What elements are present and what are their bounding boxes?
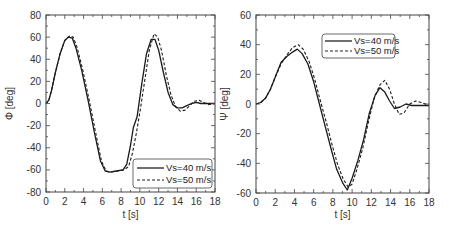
x-tick-label: 4 [81, 196, 87, 207]
y-tick-label: 20 [240, 69, 252, 80]
phi-y-axis-label: Φ [deg] [4, 87, 15, 120]
x-tick-label: 12 [366, 197, 378, 208]
x-tick-label: 16 [191, 196, 203, 207]
x-tick-label: 6 [100, 196, 106, 207]
y-tick-label: 80 [30, 10, 42, 21]
phi-chart: 024681012141618-80-60-40-20020406080 t [… [4, 10, 221, 221]
x-tick-label: 18 [209, 196, 221, 207]
phi-legend-label-40: Vs=40 m/s [166, 162, 211, 173]
y-tick-label: -20 [27, 120, 42, 131]
y-tick-label: 0 [245, 99, 251, 110]
x-tick-label: 18 [423, 197, 435, 208]
y-tick-label: -40 [27, 142, 42, 153]
y-tick-label: 40 [30, 54, 42, 65]
y-tick-label: 20 [30, 76, 42, 87]
y-tick-label: 60 [240, 10, 252, 21]
x-tick-label: 6 [311, 197, 317, 208]
x-tick-label: 16 [404, 197, 416, 208]
x-tick-label: 8 [330, 197, 336, 208]
x-tick-label: 10 [347, 197, 359, 208]
x-tick-label: 4 [292, 197, 298, 208]
y-tick-label: -20 [237, 128, 252, 139]
psi-chart-lines [256, 45, 429, 190]
phi-legend-label-50: Vs=50 m/s [166, 174, 211, 185]
y-tick-label: 40 [240, 39, 252, 50]
psi-series-vs50 [256, 45, 429, 187]
phi-series-vs50 [46, 34, 215, 172]
x-tick-label: 14 [172, 196, 184, 207]
figure: 024681012141618-80-60-40-20020406080 t [… [0, 0, 449, 231]
x-tick-label: 0 [43, 196, 49, 207]
x-tick-label: 0 [253, 197, 259, 208]
y-tick-label: -60 [27, 164, 42, 175]
psi-series-vs40 [256, 49, 429, 190]
y-tick-label: 60 [30, 32, 42, 43]
psi-y-axis-label: Ψ [deg] [219, 87, 230, 121]
x-tick-label: 14 [385, 197, 397, 208]
y-tick-label: -60 [237, 188, 252, 199]
psi-legend: Vs=40 m/s Vs=50 m/s [322, 34, 399, 58]
x-tick-label: 2 [272, 197, 278, 208]
psi-x-axis-label: t [s] [334, 209, 350, 220]
phi-chart-lines [46, 34, 215, 172]
phi-legend: Vs=40 m/s Vs=50 m/s [133, 159, 212, 188]
x-tick-label: 8 [118, 196, 124, 207]
y-tick-label: 0 [35, 98, 41, 109]
x-tick-label: 10 [134, 196, 146, 207]
x-tick-label: 12 [153, 196, 165, 207]
y-tick-label: -80 [27, 187, 42, 198]
phi-series-vs40 [46, 37, 215, 172]
psi-chart: 024681012141618-60-40-200204060 t [s] Ψ … [219, 10, 435, 221]
phi-x-axis-label: t [s] [122, 209, 138, 220]
psi-legend-label-50: Vs=50 m/s [354, 45, 399, 56]
x-tick-label: 2 [62, 196, 68, 207]
y-tick-label: -40 [237, 158, 252, 169]
